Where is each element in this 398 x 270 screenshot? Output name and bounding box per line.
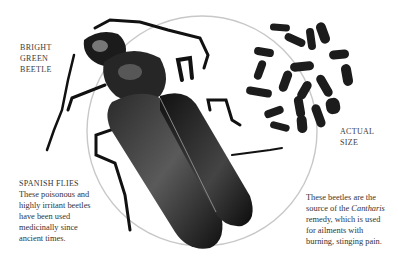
beetle-body — [84, 32, 253, 249]
caption-line-2: source of the Cantharis — [306, 203, 385, 214]
spanish-flies-caption: SPANISH FLIES These poisonous and highly… — [19, 178, 91, 244]
cantharis-caption: These beetles are the source of the Cant… — [306, 192, 385, 247]
actual-size-beetles — [246, 21, 354, 133]
actual-size-label: ACTUAL SIZE — [340, 126, 374, 148]
bright-green-beetle-label: BRIGHT GREEN BEETLE — [20, 42, 52, 75]
cantharis-term: Cantharis — [351, 204, 385, 213]
caption-heading: SPANISH FLIES — [19, 178, 91, 189]
